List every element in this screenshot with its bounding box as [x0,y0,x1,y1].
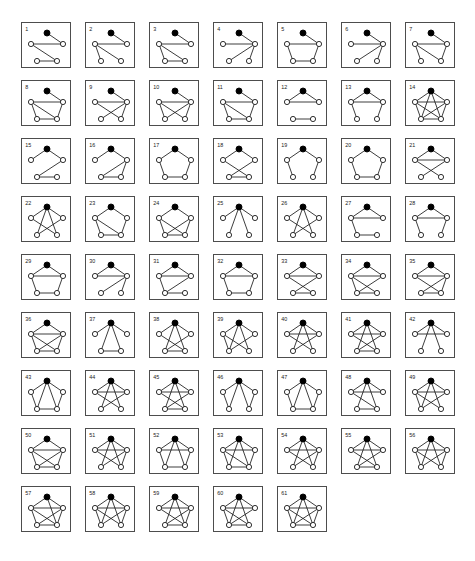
node-lower-right [54,232,59,237]
graph-edge [175,323,185,351]
graph-edge [111,439,121,467]
node-lower-right [310,406,315,411]
node-lower-right [374,232,379,237]
node-upper-right [124,505,129,510]
root-node-top [172,146,178,152]
node-group [92,88,129,122]
graph-edge [175,381,185,409]
graph-edge [37,450,63,467]
root-node-top [428,436,434,442]
graph-edge [101,439,111,467]
node-group [412,436,449,470]
graph-cell-58: 58 [85,486,135,532]
graph-cell-39: 39 [213,312,263,358]
node-group [156,146,193,180]
graph-cell-12: 12 [277,80,327,126]
graph-index-label: 10 [153,84,159,90]
graph-cell-41: 41 [341,312,391,358]
edge-group [415,439,447,467]
node-lower-left [34,406,39,411]
node-group [348,436,385,470]
node-upper-left [220,331,225,336]
node-lower-right [246,116,251,121]
graph-index-label: 41 [345,316,351,322]
root-node-top [364,262,370,268]
node-upper-left [412,447,417,452]
graph-cell-47: 47 [277,370,327,416]
node-lower-right [54,348,59,353]
graph-index-label: 26 [281,200,287,206]
edge-group [31,91,63,119]
node-lower-right [374,464,379,469]
root-node-top [44,88,50,94]
graph-edge [351,450,377,467]
node-group [28,436,65,470]
graph-index-label: 38 [153,316,159,322]
edge-group [287,439,319,467]
graph-index-label: 61 [281,490,287,496]
graph-index-label: 40 [281,316,287,322]
node-lower-left [98,116,103,121]
root-node-top [300,436,306,442]
node-upper-left [284,41,289,46]
node-group [28,494,65,528]
graph-index-label: 23 [89,200,95,206]
root-node-top [172,436,178,442]
node-group [284,30,321,64]
root-node-top [108,146,114,152]
graph-edge [47,207,57,235]
graph-edge [357,381,367,409]
graph-cell-4: 4 [213,22,263,68]
node-upper-right [188,331,193,336]
root-node-top [44,378,50,384]
node-upper-right [252,157,257,162]
graph-cell-22: 22 [21,196,71,242]
node-upper-right [124,99,129,104]
node-lower-right [182,406,187,411]
graph-edge [415,450,441,467]
node-group [28,30,65,64]
root-node-top [364,88,370,94]
graph-index-label: 54 [281,432,287,438]
graph-cell-33: 33 [277,254,327,300]
graph-edge [37,334,63,351]
graph-edge [287,450,313,467]
node-upper-right [380,447,385,452]
root-node-top [364,204,370,210]
graph-index-label: 51 [89,432,95,438]
node-group [348,320,385,354]
root-node-top [236,262,242,268]
graph-edge [223,450,249,467]
node-group [284,494,321,528]
root-node-top [236,494,242,500]
node-lower-left [98,522,103,527]
graph-edge [31,102,57,119]
graph-cell-34: 34 [341,254,391,300]
root-node-top [364,320,370,326]
edge-group [159,207,191,235]
node-group [156,494,193,528]
graph-index-label: 9 [89,84,92,90]
node-lower-right [438,348,443,353]
graph-cell-29: 29 [21,254,71,300]
node-group [412,146,449,180]
edge-group [223,207,255,235]
graph-edge [229,497,239,525]
graph-edge [303,323,313,351]
root-node-top [300,88,306,94]
node-upper-right [188,505,193,510]
graph-edge [367,381,377,409]
node-lower-left [226,290,231,295]
node-upper-right [316,505,321,510]
node-lower-left [418,290,423,295]
node-lower-left [354,290,359,295]
graph-edge [165,381,175,409]
node-upper-right [188,215,193,220]
root-node-top [172,378,178,384]
graph-edge [367,323,377,351]
graph-index-label: 8 [25,84,28,90]
graph-cell-13: 13 [341,80,391,126]
graph-cell-55: 55 [341,428,391,474]
node-group [92,378,129,412]
node-lower-left [290,348,295,353]
